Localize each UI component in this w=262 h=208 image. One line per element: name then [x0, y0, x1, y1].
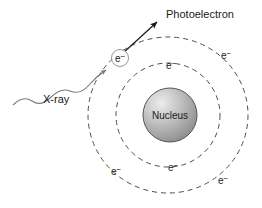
xray-label: X-ray: [43, 93, 70, 105]
electron-charge: −: [116, 165, 121, 174]
diagram-canvas: Nucleus X-ray Photoelectron e− e− e− e− …: [0, 0, 262, 208]
ejected-electron-charge: −: [120, 52, 125, 61]
photoelectron-label: Photoelectron: [166, 8, 234, 20]
nucleus-label: Nucleus: [152, 110, 188, 121]
electron-charge: −: [173, 161, 178, 170]
atom-photoelectric-diagram: Nucleus X-ray Photoelectron e− e− e− e− …: [0, 0, 262, 208]
electron-charge: −: [223, 174, 228, 183]
electron-charge: −: [226, 49, 231, 58]
electron-charge: −: [171, 59, 176, 68]
